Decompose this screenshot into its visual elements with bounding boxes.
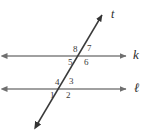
geometry-diagram: 8 7 5 6 4 3 1 2 t k ℓ	[0, 0, 149, 132]
line-label-l: ℓ	[134, 81, 139, 94]
angle-label-1: 1	[50, 91, 55, 100]
angle-label-3: 3	[69, 77, 74, 86]
transversal-line-t	[38, 15, 102, 123]
geometry-figure-canvas	[0, 0, 149, 132]
angle-label-8: 8	[73, 45, 78, 54]
angle-label-5: 5	[68, 58, 73, 67]
angle-label-7: 7	[87, 44, 92, 53]
transversal-label-t: t	[111, 8, 114, 20]
angle-label-4: 4	[55, 78, 60, 87]
angle-label-6: 6	[84, 58, 89, 67]
line-label-k: k	[133, 48, 139, 61]
angle-label-2: 2	[66, 91, 71, 100]
